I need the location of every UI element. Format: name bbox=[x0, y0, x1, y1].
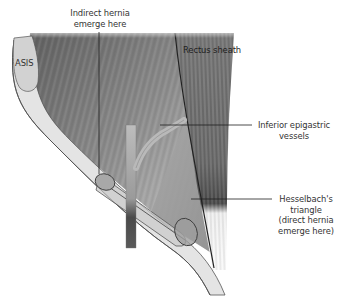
label-hesselbach-line3: (direct hernia bbox=[274, 215, 338, 226]
label-indirect-hernia: Indirect hernia emerge here bbox=[58, 8, 142, 29]
label-hesselbach-line4: emerge here) bbox=[274, 226, 338, 237]
label-hesselbach: Hesselbach's triangle (direct hernia eme… bbox=[274, 194, 338, 236]
label-asis: ASIS bbox=[15, 58, 33, 69]
anatomy-illustration bbox=[0, 0, 338, 301]
label-hesselbach-line2: triangle bbox=[274, 205, 338, 216]
inguinal-anatomy-diagram: Indirect hernia emerge here ASIS Rectus … bbox=[0, 0, 338, 301]
label-indirect-hernia-line2: emerge here bbox=[58, 19, 142, 30]
label-hesselbach-line1: Hesselbach's bbox=[274, 194, 338, 205]
label-indirect-hernia-line1: Indirect hernia bbox=[58, 8, 142, 19]
label-rectus-sheath: Rectus sheath bbox=[183, 45, 241, 56]
top-fade bbox=[0, 28, 240, 38]
label-inferior-epigastric: Inferior epigastric vessels bbox=[254, 120, 334, 141]
label-inferior-epigastric-line1: Inferior epigastric bbox=[254, 120, 334, 131]
label-inferior-epigastric-line2: vessels bbox=[254, 131, 334, 142]
